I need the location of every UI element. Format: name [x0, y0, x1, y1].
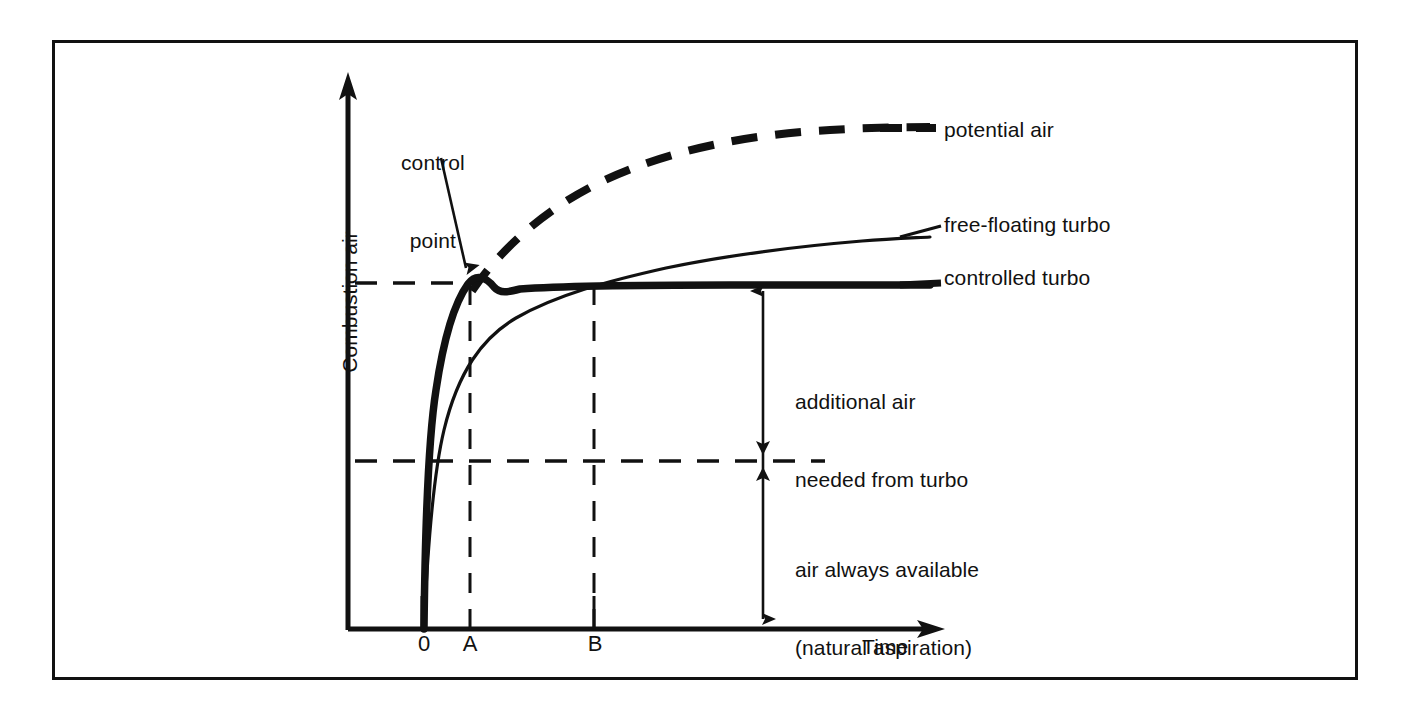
- curve-label-free-floating-turbo: free-floating turbo: [944, 212, 1111, 238]
- callout-label-control-point-line2: point: [401, 228, 465, 254]
- curve-label-potential-air: potential air: [944, 117, 1054, 143]
- y-axis-title: Combustion air: [338, 192, 362, 412]
- callout-label-control-point-line1: control: [401, 150, 465, 176]
- callout-label-control-point: control point: [401, 98, 465, 306]
- curve-label-controlled-turbo: controlled turbo: [944, 265, 1090, 291]
- measurement-label-air-always-line1: air always available: [795, 557, 979, 583]
- x-tick-label-0: 0: [409, 633, 439, 655]
- figure-root: Combustion air control point potential a…: [0, 0, 1405, 724]
- measurement-label-air-always-available: air always available (natural aspiration…: [795, 505, 979, 713]
- measurement-label-additional-air-line2: needed from turbo: [795, 467, 968, 493]
- x-tick-label-b: B: [580, 633, 610, 655]
- measurement-label-additional-air-line1: additional air: [795, 389, 968, 415]
- x-tick-label-a: A: [455, 633, 485, 655]
- legend-line-free-floating: [900, 226, 941, 237]
- legend-line-controlled: [900, 283, 941, 285]
- diagram-canvas: [0, 0, 1405, 724]
- curve-potential-air: [472, 127, 930, 291]
- x-axis-title: Time: [862, 634, 908, 660]
